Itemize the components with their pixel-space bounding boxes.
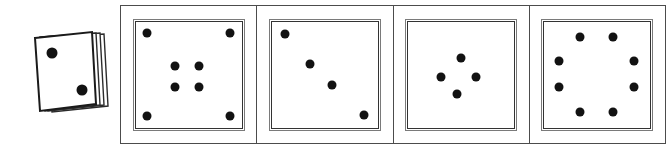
- pip: [143, 29, 152, 38]
- pip: [555, 83, 564, 92]
- pip: [630, 56, 639, 65]
- pip: [452, 89, 461, 98]
- pip: [436, 72, 445, 81]
- sequence-cell-2[interactable]: [257, 6, 393, 143]
- pip: [609, 33, 618, 42]
- pip: [457, 53, 466, 62]
- pip: [555, 56, 564, 65]
- option-card-4[interactable]: [543, 21, 651, 129]
- pip: [576, 33, 585, 42]
- option-card-3[interactable]: [407, 21, 515, 129]
- figure-canvas: [0, 0, 672, 154]
- pip: [471, 72, 480, 81]
- pip: [630, 83, 639, 92]
- option-card-1[interactable]: [135, 21, 243, 129]
- pip: [195, 62, 204, 71]
- pip: [280, 30, 289, 39]
- pip: [576, 107, 585, 116]
- pip: [225, 29, 234, 38]
- pip: [360, 110, 369, 119]
- option-sequence-frame: [120, 5, 666, 144]
- option-card-2[interactable]: [271, 21, 379, 129]
- pip: [225, 111, 234, 120]
- sequence-cell-4[interactable]: [530, 6, 665, 143]
- pip: [306, 59, 315, 68]
- card-stack[interactable]: [30, 28, 110, 118]
- card-front-pip-2: [77, 85, 88, 96]
- sequence-cell-3[interactable]: [394, 6, 530, 143]
- pip: [195, 83, 204, 92]
- card-front-face: [35, 32, 96, 111]
- pip: [328, 81, 337, 90]
- pip: [170, 62, 179, 71]
- pip: [170, 83, 179, 92]
- pip: [143, 111, 152, 120]
- card-front-pip-1: [47, 48, 58, 59]
- card-stack-graphic: [30, 28, 110, 118]
- pip: [609, 107, 618, 116]
- sequence-cell-1[interactable]: [121, 6, 257, 143]
